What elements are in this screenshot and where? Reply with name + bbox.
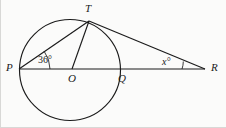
angle-label-at-P: 36° xyxy=(38,55,52,65)
point-label-R: R xyxy=(211,62,218,73)
geometry-figure: P T O Q R 36° x° xyxy=(0,0,226,128)
angle-label-at-R: x° xyxy=(162,57,170,67)
left-edge-line xyxy=(0,0,1,128)
segment-TR xyxy=(89,21,205,69)
segment-PT xyxy=(19,21,89,69)
angle-arc-at-R xyxy=(182,62,183,70)
point-label-T: T xyxy=(85,3,91,14)
point-label-P: P xyxy=(6,62,13,73)
point-label-Q: Q xyxy=(118,73,126,84)
point-label-O: O xyxy=(68,73,76,84)
segment-OT xyxy=(72,21,89,69)
bottom-edge-line xyxy=(0,127,226,128)
diagram-canvas xyxy=(0,0,226,128)
